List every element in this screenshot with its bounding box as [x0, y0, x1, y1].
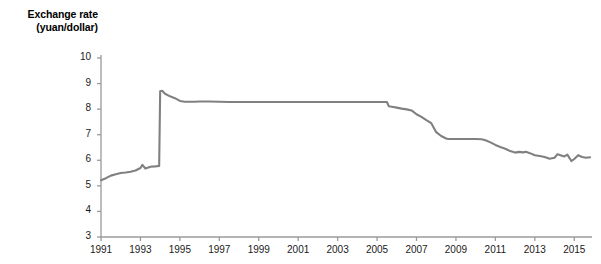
- x-tick-label: 2011: [475, 244, 515, 255]
- x-tick-label: 1991: [81, 244, 121, 255]
- exchange-rate-line: [101, 91, 590, 180]
- y-tick-label: 7: [67, 128, 91, 139]
- x-tick-label: 2007: [397, 244, 437, 255]
- exchange-rate-chart: Exchange rate (yuan/dollar) 109876543 19…: [0, 0, 601, 264]
- x-tick-label: 2005: [357, 244, 397, 255]
- y-tick-label: 5: [67, 179, 91, 190]
- y-tick-label: 6: [67, 153, 91, 164]
- x-tick-label: 1997: [199, 244, 239, 255]
- y-tick-label: 10: [67, 51, 91, 62]
- y-tick-label: 3: [67, 230, 91, 241]
- x-tick-label: 1995: [160, 244, 200, 255]
- y-tick-label: 8: [67, 102, 91, 113]
- x-tick-label: 1993: [120, 244, 160, 255]
- x-tick-label: 1999: [239, 244, 279, 255]
- x-tick-label: 2013: [515, 244, 555, 255]
- x-tick-label: 2003: [318, 244, 358, 255]
- x-tick-label: 2001: [278, 244, 318, 255]
- y-tick-label: 4: [67, 204, 91, 215]
- axes: [97, 55, 592, 241]
- x-tick-label: 2015: [554, 244, 594, 255]
- x-tick-label: 2009: [436, 244, 476, 255]
- y-tick-label: 9: [67, 77, 91, 88]
